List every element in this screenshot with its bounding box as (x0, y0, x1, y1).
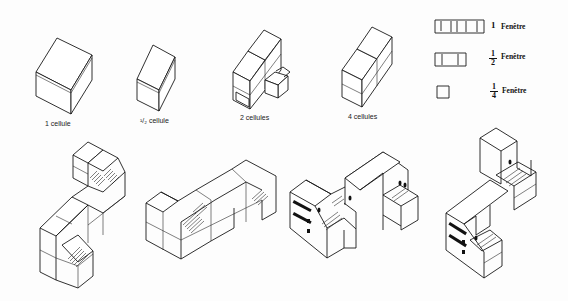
legend-fraction-half: 1 2 (488, 50, 498, 67)
legend-label-quarter: Fenêtre (502, 86, 526, 95)
label-half-cell: ¹/₂ cellule (140, 117, 169, 124)
one-cell-cube (36, 38, 92, 114)
stair-icon (322, 188, 408, 230)
label-four-cells: 4 cellules (348, 113, 377, 120)
legend-fraction-full: 1 (491, 20, 496, 30)
modular-cell-diagram: 1 cellule ¹/₂ cellule 2 cellules 4 cellu… (0, 0, 568, 301)
label-one-cell: 1 cellule (45, 120, 71, 127)
legend-label-half: Fenêtre (501, 52, 525, 61)
stair-icon (183, 190, 268, 233)
rendered-z-building (290, 152, 418, 258)
rendered-s-building (446, 128, 536, 278)
two-cells-assembly (233, 30, 290, 109)
wireframe-z-assembly (146, 160, 276, 259)
stair-icon (90, 169, 119, 186)
legend-label-full: Fenêtre (501, 22, 525, 31)
legend-window-half-icon (435, 53, 466, 66)
half-cell-block (137, 45, 175, 111)
four-cells-assembly (342, 27, 392, 107)
legend-fraction-quarter: 1 4 (489, 83, 499, 100)
wireframe-s-assembly (40, 142, 125, 288)
diagram-drawing (0, 0, 568, 301)
legend-window-quarter-icon (437, 86, 449, 98)
legend-window-full-icon (435, 20, 484, 33)
label-two-cells: 2 cellules (240, 114, 269, 121)
